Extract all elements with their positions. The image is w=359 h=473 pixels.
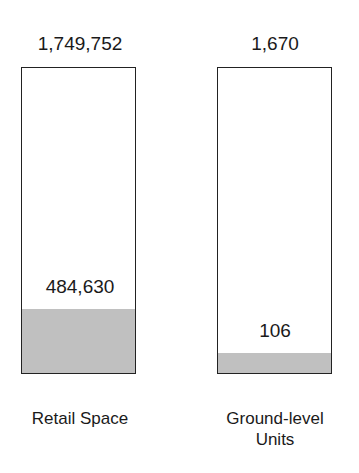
category-label-line1: Ground-level	[195, 408, 355, 429]
category-label-line2: Units	[195, 429, 355, 450]
category-label-retail: Retail Space	[0, 408, 160, 429]
bar-retail-space	[21, 67, 136, 374]
total-label-units: 1,670	[195, 33, 355, 55]
subset-label-units: 106	[195, 320, 355, 342]
subset-label-retail: 484,630	[0, 276, 160, 298]
category-label-line1: Retail Space	[0, 408, 160, 429]
total-label-retail: 1,749,752	[0, 33, 160, 55]
bar-fill-ground-level-units	[218, 353, 331, 373]
category-label-units: Ground-level Units	[195, 408, 355, 450]
bar-fill-retail-space	[22, 309, 135, 373]
